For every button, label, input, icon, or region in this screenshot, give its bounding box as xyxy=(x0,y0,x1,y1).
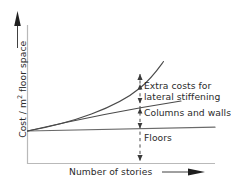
x-arrow-head xyxy=(188,169,205,176)
arrow-head-mid-upper-up-icon xyxy=(138,98,143,104)
annotation-extra-costs: Extra costs forlateral stiffening xyxy=(144,81,220,102)
y-axis-label-suffix: floor space xyxy=(17,41,28,95)
cost-per-floor-area-chart: Cost / m2 floor space Number of stories … xyxy=(0,0,231,187)
x-axis-arrow-icon xyxy=(162,169,205,176)
annotation-extra-costs-line2: lateral stiffening xyxy=(144,91,220,102)
annotation-columns-and-walls: Columns and walls xyxy=(144,108,231,119)
annotation-floors: Floors xyxy=(144,133,172,144)
annotation-extra-costs-line1: Extra costs for xyxy=(144,80,211,91)
y-axis-label-prefix: Cost / m xyxy=(17,99,28,138)
series-floors-line xyxy=(28,127,216,131)
arrow-head-mid-lower-up-icon xyxy=(138,123,143,129)
x-axis-label: Number of stories xyxy=(69,167,152,178)
y-axis-label: Cost / m2 floor space xyxy=(18,14,29,164)
y-axis-label-superscript: 2 xyxy=(16,95,24,99)
arrow-head-bottom-icon xyxy=(137,155,142,161)
arrow-head-top-icon xyxy=(137,74,142,80)
arrow-head-mid-lower-down-icon xyxy=(138,108,143,114)
